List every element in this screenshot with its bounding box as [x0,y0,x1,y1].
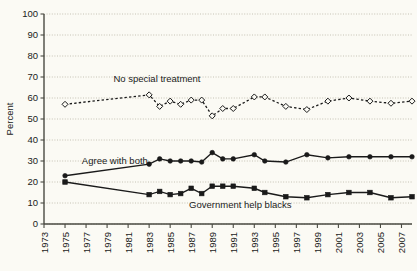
data-point [189,186,194,191]
x-tick-label-2005: 2005 [375,232,386,253]
x-tick-label-1999: 1999 [312,232,323,253]
data-point [231,157,236,162]
data-point [389,195,394,200]
data-point [210,150,215,155]
y-tick-label-20: 20 [27,176,38,187]
data-point [178,191,183,196]
x-tick-label-1993: 1993 [249,232,260,253]
data-point [157,189,162,194]
x-tick-label-1997: 1997 [291,232,302,253]
data-point [63,180,68,185]
x-tick-label-1977: 1977 [81,232,92,253]
y-tick-label-80: 80 [27,50,38,61]
data-point [199,191,204,196]
data-point [326,156,331,161]
series-0 [62,92,415,119]
x-tick-label-1987: 1987 [186,232,197,253]
data-point [220,157,225,162]
x-tick-label-2001: 2001 [333,232,344,253]
data-point [410,155,415,160]
data-point [304,107,310,113]
series-2 [63,180,415,200]
annotation-label-0: No special treatment [113,73,200,84]
data-point [252,186,257,191]
y-tick-label-100: 100 [22,8,38,19]
y-tick-label-50: 50 [27,113,38,124]
y-tick-label-0: 0 [33,218,38,229]
data-point [410,194,415,199]
data-point [168,192,173,197]
data-point [388,100,394,106]
data-point [251,94,257,100]
data-point [178,159,183,164]
x-tick-label-1981: 1981 [123,232,134,253]
x-tick-label-1983: 1983 [144,232,155,253]
y-axis-title: Percent [4,102,15,135]
y-axis-title-text: Percent [4,102,15,135]
y-tick-label-10: 10 [27,197,38,208]
data-point [167,98,173,104]
data-point [168,159,173,164]
data-point [305,152,310,157]
data-point [263,190,268,195]
data-point [220,106,226,112]
x-tick-label-1991: 1991 [228,232,239,253]
chart-container: 0102030405060708090100 19731975197719791… [0,0,417,271]
data-point [347,155,352,160]
data-point [230,106,236,112]
data-point [263,159,268,164]
x-axis-ticks: 1973197519771979198119831985198719891991… [39,224,407,253]
data-point [252,152,257,157]
x-tick-label-2007: 2007 [396,232,407,253]
data-series [62,92,415,200]
line-chart: 0102030405060708090100 19731975197719791… [0,0,417,271]
data-point [62,101,68,107]
x-tick-label-1995: 1995 [270,232,281,253]
data-point [368,190,373,195]
data-point [325,98,331,104]
data-point [346,95,352,101]
data-point [409,98,415,104]
data-point [231,184,236,189]
x-tick-label-1989: 1989 [207,232,218,253]
series-line-2 [65,182,412,198]
data-point [220,184,225,189]
data-point [188,97,194,103]
data-point [147,192,152,197]
data-point [284,160,289,165]
data-point [178,101,184,107]
x-tick-label-1975: 1975 [60,232,71,253]
x-tick-label-1985: 1985 [165,232,176,253]
data-point [210,184,215,189]
data-point [326,192,331,197]
data-point [368,155,373,160]
y-tick-label-40: 40 [27,134,38,145]
y-tick-label-70: 70 [27,71,38,82]
y-tick-label-30: 30 [27,155,38,166]
data-point [389,155,394,160]
x-tick-label-1973: 1973 [39,232,50,253]
data-point [157,157,162,162]
data-point [367,98,373,104]
data-point [305,195,310,200]
data-point [199,160,204,165]
data-point [283,103,289,109]
series-line-0 [65,95,412,116]
data-point [262,94,268,100]
x-tick-label-2003: 2003 [354,232,365,253]
x-tick-label-1979: 1979 [102,232,113,253]
y-tick-label-60: 60 [27,92,38,103]
data-point [189,159,194,164]
annotation-label-2: Government help blacks [189,199,292,210]
y-tick-label-90: 90 [27,29,38,40]
data-point [347,190,352,195]
data-point [63,173,68,178]
y-axis-ticks: 0102030405060708090100 [22,8,44,229]
annotation-label-1: Agree with both [82,155,148,166]
